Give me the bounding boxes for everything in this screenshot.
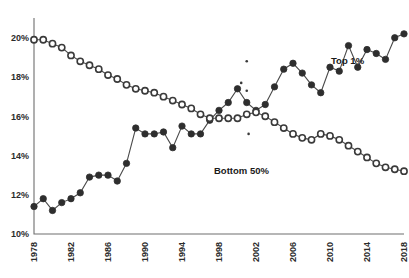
data-point-marker [40, 37, 46, 43]
data-point-marker [170, 144, 176, 150]
x-axis-tick-label: 2018 [399, 242, 409, 262]
data-point-marker [96, 172, 102, 178]
data-point-marker [179, 101, 185, 107]
data-point-marker [401, 168, 407, 174]
data-point-marker [68, 52, 74, 58]
data-point-marker [123, 82, 129, 88]
scan-speck [245, 60, 248, 63]
data-point-marker [253, 109, 259, 115]
data-point-marker [244, 99, 250, 105]
data-point-marker [59, 199, 65, 205]
data-point-marker [216, 107, 222, 113]
x-axis-tick-label: 1998 [214, 242, 224, 262]
data-point-marker [401, 31, 407, 37]
data-point-marker [207, 115, 213, 121]
data-point-marker [197, 111, 203, 117]
data-point-marker [77, 58, 83, 64]
data-point-marker [364, 46, 370, 52]
data-point-marker [345, 143, 351, 149]
data-point-marker [364, 154, 370, 160]
data-point-marker [234, 86, 240, 92]
data-point-marker [392, 166, 398, 172]
data-point-marker [160, 94, 166, 100]
data-point-marker [160, 129, 166, 135]
data-point-marker [170, 97, 176, 103]
data-point-marker [59, 44, 65, 50]
data-point-marker [151, 131, 157, 137]
x-axis-tick-label: 1986 [103, 242, 113, 262]
data-point-marker [142, 88, 148, 94]
x-axis-tick-label: 2006 [288, 242, 298, 262]
data-point-marker [262, 101, 268, 107]
data-point-marker [188, 131, 194, 137]
data-point-marker [225, 99, 231, 105]
chart-container: 20%18%16%14%12%10%1978198219861990199419… [0, 0, 409, 278]
data-point-marker [271, 119, 277, 125]
x-axis-tick-label: 1994 [177, 242, 187, 262]
data-point-marker [234, 115, 240, 121]
data-point-marker [271, 84, 277, 90]
data-point-marker [133, 86, 139, 92]
data-point-marker [40, 195, 46, 201]
data-point-marker [197, 131, 203, 137]
data-point-marker [105, 72, 111, 78]
x-axis-tick-label: 1982 [66, 242, 76, 262]
x-axis-tick-label: 2010 [325, 242, 335, 262]
data-point-marker [382, 164, 388, 170]
data-point-marker [382, 56, 388, 62]
data-point-marker [373, 50, 379, 56]
series-label-bottom-50-percent: Bottom 50% [214, 165, 269, 176]
data-point-marker [281, 125, 287, 131]
data-point-marker [345, 42, 351, 48]
scan-speck [247, 133, 250, 136]
data-point-marker [31, 37, 37, 43]
y-axis-tick-label: 18% [11, 72, 29, 82]
data-point-marker [77, 190, 83, 196]
data-point-marker [49, 207, 55, 213]
x-axis-tick-label: 1978 [29, 242, 39, 262]
income-share-line-chart: 20%18%16%14%12%10%1978198219861990199419… [0, 0, 409, 278]
x-axis-tick-label: 2002 [251, 242, 261, 262]
y-axis-tick-label: 14% [11, 151, 29, 161]
data-point-marker [96, 66, 102, 72]
data-point-marker [308, 82, 314, 88]
data-point-marker [31, 203, 37, 209]
y-axis-tick-label: 20% [11, 33, 29, 43]
data-point-marker [105, 172, 111, 178]
scan-speck [240, 82, 243, 85]
data-point-marker [355, 148, 361, 154]
data-point-marker [336, 137, 342, 143]
data-point-marker [123, 160, 129, 166]
data-point-marker [262, 113, 268, 119]
data-point-marker [299, 135, 305, 141]
data-point-marker [179, 123, 185, 129]
data-point-marker [244, 111, 250, 117]
data-point-marker [336, 68, 342, 74]
data-point-marker [281, 66, 287, 72]
data-point-marker [308, 137, 314, 143]
data-point-marker [86, 62, 92, 68]
data-point-marker [318, 90, 324, 96]
data-point-marker [290, 60, 296, 66]
data-point-marker [290, 131, 296, 137]
data-point-marker [188, 105, 194, 111]
data-point-marker [373, 160, 379, 166]
x-axis-tick-label: 1990 [140, 242, 150, 262]
data-point-marker [142, 131, 148, 137]
chart-axes [34, 18, 404, 234]
data-point-marker [49, 41, 55, 47]
data-point-marker [216, 115, 222, 121]
data-point-marker [299, 70, 305, 76]
data-point-marker [68, 195, 74, 201]
data-point-marker [133, 125, 139, 131]
data-point-marker [392, 35, 398, 41]
y-axis-tick-label: 12% [11, 190, 29, 200]
series-label-top-1-percent: Top 1% [331, 55, 365, 66]
data-point-marker [327, 133, 333, 139]
y-axis-tick-label: 10% [11, 229, 29, 239]
data-point-marker [151, 90, 157, 96]
data-point-marker [318, 131, 324, 137]
data-point-marker [225, 115, 231, 121]
x-axis-tick-label: 2014 [362, 242, 372, 262]
data-point-marker [86, 174, 92, 180]
